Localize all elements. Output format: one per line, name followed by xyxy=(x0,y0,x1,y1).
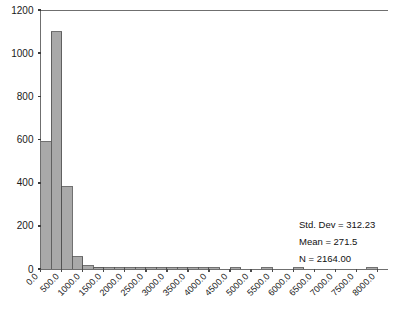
histogram-bar xyxy=(198,268,209,269)
mean-label: Mean = 271.5 xyxy=(299,236,357,247)
histogram-bar xyxy=(156,268,167,269)
histogram-bar xyxy=(125,268,136,269)
x-tick-label: 1500.0 xyxy=(77,271,104,298)
x-tick-label: 1000.0 xyxy=(55,271,82,298)
y-tick-label: 1000 xyxy=(11,48,34,59)
histogram-bar xyxy=(72,257,83,269)
bars-group xyxy=(41,32,378,269)
histogram-bar xyxy=(41,142,52,269)
y-tick-label: 800 xyxy=(17,91,34,102)
histogram-bar xyxy=(230,268,241,269)
histogram-bar xyxy=(51,32,62,269)
histogram-bar xyxy=(146,268,157,269)
x-tick-label: 7000.0 xyxy=(308,271,335,298)
y-tick-label: 1200 xyxy=(11,5,34,16)
histogram-bar xyxy=(135,268,146,269)
y-tick-label: 600 xyxy=(17,134,34,145)
x-tick-label: 6000.0 xyxy=(266,271,293,298)
x-tick-label: 3000.0 xyxy=(140,271,167,298)
x-tick-label: 4000.0 xyxy=(182,271,209,298)
chart-canvas: 020040060080010001200 0.0500.01000.01500… xyxy=(0,0,406,322)
x-tick-label: 5500.0 xyxy=(245,271,272,298)
y-tick-label: 400 xyxy=(17,177,34,188)
x-tick-label: 8000.0 xyxy=(350,271,377,298)
histogram-bar xyxy=(367,268,378,269)
histogram-bar xyxy=(114,268,125,269)
y-tick-label: 200 xyxy=(17,220,34,231)
histogram-bar xyxy=(104,268,115,269)
histogram-bar xyxy=(177,268,188,269)
x-tick-label: 7500.0 xyxy=(329,271,356,298)
histogram-chart: 020040060080010001200 0.0500.01000.01500… xyxy=(0,0,406,322)
x-axis-labels: 0.0500.01000.01500.02000.02500.03000.035… xyxy=(24,271,377,298)
x-tick-label: 5000.0 xyxy=(224,271,251,298)
histogram-bar xyxy=(83,266,94,269)
histogram-bar xyxy=(293,268,304,269)
x-tick-label: 4500.0 xyxy=(203,271,230,298)
x-tick-label: 3500.0 xyxy=(161,271,188,298)
histogram-bar xyxy=(209,268,220,269)
x-tick-label: 6500.0 xyxy=(287,271,314,298)
y-axis-labels: 020040060080010001200 xyxy=(11,5,34,275)
histogram-bar xyxy=(167,268,178,269)
sample-size-label: N = 2164.00 xyxy=(299,253,351,264)
histogram-bar xyxy=(93,267,104,269)
histogram-bar xyxy=(62,187,73,269)
x-tick-label: 2000.0 xyxy=(98,271,125,298)
stats-annotation: Std. Dev = 312.23 Mean = 271.5 N = 2164.… xyxy=(299,219,375,264)
x-tick-label: 0.0 xyxy=(24,271,40,287)
std-dev-label: Std. Dev = 312.23 xyxy=(299,219,375,230)
histogram-bar xyxy=(188,268,199,269)
x-tick-label: 2500.0 xyxy=(119,271,146,298)
histogram-bar xyxy=(262,268,273,269)
